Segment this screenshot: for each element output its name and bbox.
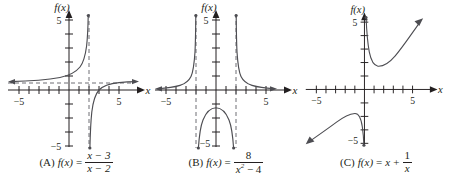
caption-c-label: (C) — [340, 157, 355, 168]
x-tick-label-pos5-c: 5 — [410, 95, 415, 106]
caption-c-equals: = — [376, 157, 382, 168]
y-tick-label-pos5-a: 5 — [57, 15, 62, 26]
caption-a: (A) f(x) = x − 3 x − 2 — [0, 150, 152, 174]
caption-a-numerator: x − 3 — [85, 150, 112, 162]
curve-a-right-branch — [90, 82, 136, 148]
caption-b-den-rest: − 4 — [244, 162, 261, 174]
x-tick-label-pos5-a: 5 — [117, 96, 122, 107]
y-axis-label-a: f(x) — [54, 2, 70, 14]
caption-c-plus: + — [393, 157, 399, 168]
curve-a-left-branch — [10, 16, 88, 82]
y-axis-label-c: f(x) — [350, 4, 365, 16]
rational-function-figure: f(x) x −5 5 5 −5 (A) f(x) = x − 3 x − 2 — [0, 0, 458, 191]
caption-c-numerator: 1 — [402, 150, 412, 162]
caption-b-numerator: 8 — [244, 150, 254, 162]
y-tick-label-neg5-c: −5 — [348, 135, 358, 146]
x-tick-label-pos5-b: 5 — [264, 96, 269, 107]
caption-a-fraction: x − 3 x − 2 — [85, 150, 112, 174]
caption-a-equals: = — [76, 157, 82, 168]
x-axis-label-b: x — [292, 84, 298, 96]
x-tick-label-neg5-b: −5 — [161, 96, 172, 107]
caption-c-denominator: x — [403, 162, 412, 175]
graph-c: f(x) x −5 5 5 −5 — [300, 2, 452, 150]
x-tick-label-neg5-a: −5 — [14, 96, 25, 107]
graph-a: f(x) x −5 5 5 −5 — [0, 2, 152, 150]
caption-b-fraction: 8 x2 − 4 — [234, 150, 264, 175]
curve-b-right-branch — [236, 16, 274, 89]
y-axis-label-b: f(x) — [201, 2, 217, 14]
y-tick-label-pos5-c: 5 — [352, 17, 357, 28]
y-axis-b — [213, 10, 220, 147]
caption-a-denominator: x − 2 — [85, 162, 112, 175]
caption-c-fraction: 1 x — [402, 150, 412, 174]
panel-a: f(x) x −5 5 5 −5 (A) f(x) = x − 3 x − 2 — [0, 0, 152, 191]
caption-b-equals: = — [225, 157, 231, 168]
caption-a-label: (A) — [39, 157, 54, 168]
caption-c-lead-term: x — [385, 157, 390, 168]
caption-b-label: (B) — [189, 157, 204, 168]
y-tick-label-pos5-b: 5 — [204, 15, 209, 26]
curve-c-upper-branch — [366, 17, 419, 66]
caption-b-denominator: x2 − 4 — [234, 162, 264, 175]
caption-b-fx: f(x) — [206, 157, 221, 168]
y-tick-label-neg5-a: −5 — [51, 141, 62, 150]
panel-c: f(x) x −5 5 5 −5 (C) f(x) = x + 1 x — [300, 0, 452, 191]
caption-a-fx: f(x) — [58, 157, 73, 168]
caption-c: (C) f(x) = x + 1 x — [300, 150, 452, 174]
caption-c-fx: f(x) — [358, 157, 373, 168]
caption-b: (B) f(x) = 8 x2 − 4 — [150, 150, 302, 175]
curve-b-left-branch — [158, 16, 196, 89]
y-axis-a — [66, 10, 73, 147]
y-tick-label-neg5-b: −5 — [200, 138, 211, 149]
graph-b: f(x) x −5 5 5 −5 — [150, 2, 302, 150]
x-axis-label-c: x — [437, 84, 443, 95]
panel-b: f(x) x −5 5 5 −5 (B) f(x) = 8 x2 − 4 — [150, 0, 302, 191]
x-tick-label-neg5-c: −5 — [311, 95, 321, 106]
